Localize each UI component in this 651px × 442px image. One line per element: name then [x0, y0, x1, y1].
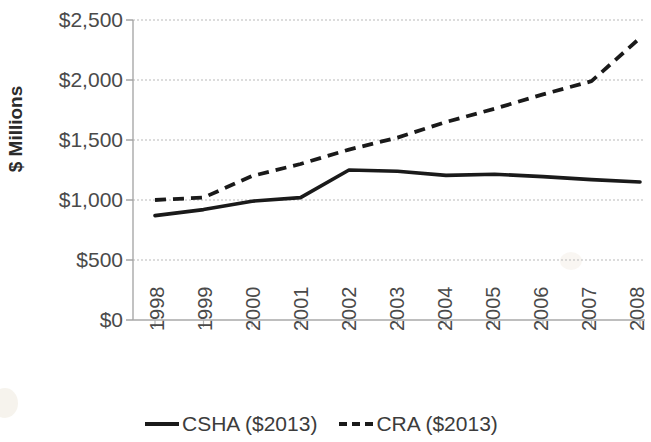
legend-solid-line-icon [145, 422, 179, 426]
legend-item-csha: CSHA ($2013) [145, 412, 317, 436]
x-tick-label: 2000 [242, 287, 265, 332]
x-tick-label: 2002 [338, 287, 361, 332]
legend-label-csha: CSHA ($2013) [182, 412, 317, 436]
x-tick-label: 2007 [578, 287, 601, 332]
series-line-csha [155, 170, 640, 216]
y-axis-ticks [126, 20, 133, 320]
x-tick-label: 2006 [530, 287, 553, 332]
legend-item-cra: CRA ($2013) [339, 412, 497, 436]
x-tick-label: 2005 [482, 287, 505, 332]
line-chart: $ Millions $2,500 $2,000 $1,500 $1,000 $… [0, 0, 651, 442]
series-line-cra [155, 38, 640, 200]
legend-label-cra: CRA ($2013) [376, 412, 497, 436]
x-tick-label: 2001 [290, 287, 313, 332]
x-tick-label: 2008 [626, 287, 649, 332]
plot-area [0, 0, 651, 442]
chart-legend: CSHA ($2013) CRA ($2013) [145, 409, 545, 439]
x-tick-label: 1998 [146, 287, 169, 332]
x-tick-label: 2003 [386, 287, 409, 332]
x-tick-label: 2004 [434, 287, 457, 332]
x-tick-label: 1999 [194, 287, 217, 332]
legend-dashed-line-icon [339, 422, 373, 426]
